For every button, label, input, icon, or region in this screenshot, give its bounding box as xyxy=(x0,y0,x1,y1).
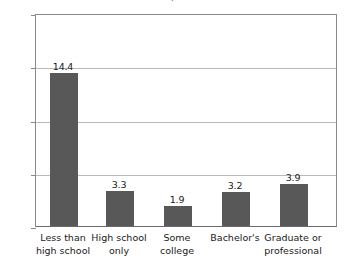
y-axis-tick xyxy=(31,68,36,69)
gridline xyxy=(36,122,336,123)
bar[interactable] xyxy=(164,206,192,226)
bar[interactable] xyxy=(50,73,78,226)
y-axis-tick xyxy=(31,122,36,123)
bar-value-label: 3.9 xyxy=(271,172,315,183)
chart-title-cropped: g xyxy=(168,0,174,1)
y-axis-tick xyxy=(31,15,36,16)
bar[interactable] xyxy=(106,191,134,226)
x-axis-label-line: college xyxy=(138,245,216,258)
x-axis-label-line: professional xyxy=(254,245,332,258)
y-axis-tick xyxy=(31,228,36,229)
bar[interactable] xyxy=(280,184,308,226)
bar-chart: g Percent 0510152014.4Less thanhigh scho… xyxy=(0,0,345,265)
bar-value-label: 1.9 xyxy=(155,194,199,205)
x-axis-category-label: Graduate orprofessional xyxy=(254,232,332,257)
bar-value-label: 3.3 xyxy=(97,179,141,190)
bar-value-label: 3.2 xyxy=(213,180,257,191)
bar[interactable] xyxy=(222,192,250,226)
y-axis-tick xyxy=(31,175,36,176)
x-axis-label-line: Graduate or xyxy=(254,232,332,245)
bar-value-label: 14.4 xyxy=(41,61,85,72)
